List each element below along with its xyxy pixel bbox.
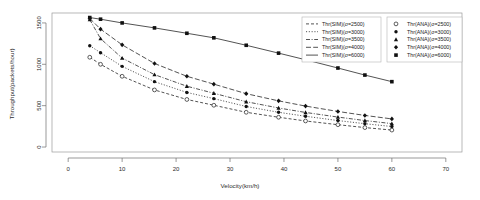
point-marker (394, 30, 397, 33)
point-marker (120, 65, 123, 68)
point-marker (244, 110, 248, 114)
legend-item-label: Thr(ANA)(σ=3500) (407, 36, 451, 42)
point-marker (153, 26, 157, 30)
point-marker (336, 123, 340, 127)
legend-item-label: Thr(SIM)(σ=3500) (322, 36, 365, 42)
throughput-velocity-line-chart: 050010001500 010203040506070 Throughput(… (0, 0, 480, 200)
point-marker (336, 119, 339, 122)
point-marker (336, 66, 340, 70)
chart-container: 050010001500 010203040506070 Throughput(… (0, 0, 480, 200)
x-tick-label: 40 (281, 166, 288, 172)
legend-item-label: Thr(ANA)(σ=3000) (407, 29, 451, 35)
x-tick-label: 30 (227, 166, 234, 172)
x-tick-label: 10 (119, 166, 126, 172)
point-marker (363, 73, 367, 77)
y-tick-label: 1000 (36, 57, 42, 71)
point-marker (244, 43, 248, 47)
point-marker (390, 128, 394, 132)
point-marker (212, 36, 216, 40)
point-marker (120, 21, 124, 25)
y-axis-label: Throughput(packets/hour) (8, 48, 15, 119)
x-tick-label: 70 (442, 166, 449, 172)
legend-ana[interactable]: Thr(ANA)(σ=2500)Thr(ANA)(σ=3000)Thr(ANA)… (387, 17, 462, 62)
point-marker (88, 16, 92, 20)
x-axis-label: Velocity(km/h) (221, 182, 260, 189)
legend-item-label: Thr(ANA)(σ=2500) (407, 21, 451, 27)
legend-item-label: Thr(SIM)(σ=2500) (322, 21, 365, 27)
point-marker (120, 74, 124, 78)
point-marker (390, 80, 394, 84)
legend-sim[interactable]: Thr(SIM)(σ=2500)Thr(SIM)(σ=3000)Thr(SIM)… (302, 17, 381, 62)
point-marker (185, 31, 189, 35)
point-marker (245, 105, 248, 108)
point-marker (277, 111, 280, 114)
x-tick-label: 50 (335, 166, 342, 172)
point-marker (304, 115, 307, 118)
point-marker (394, 53, 398, 57)
point-marker (153, 80, 156, 83)
x-tick-label: 20 (173, 166, 180, 172)
point-marker (394, 22, 398, 26)
legend-item-label: Thr(SIM)(σ=4000) (322, 44, 365, 50)
point-marker (88, 55, 92, 59)
point-marker (212, 103, 216, 107)
point-marker (363, 126, 367, 130)
point-marker (99, 51, 102, 54)
legend-item-label: Thr(SIM)(σ=3000) (322, 29, 365, 35)
point-marker (153, 88, 157, 92)
point-marker (185, 98, 189, 102)
y-tick-label: 1500 (36, 16, 42, 30)
legend-item-label: Thr(ANA)(σ=4000) (407, 44, 451, 50)
point-marker (99, 62, 103, 66)
point-marker (304, 119, 308, 123)
point-marker (99, 17, 103, 21)
point-marker (277, 51, 281, 55)
x-tick-label: 60 (389, 166, 396, 172)
point-marker (390, 125, 393, 128)
y-tick-label: 500 (36, 100, 42, 111)
point-marker (185, 91, 188, 94)
legend-item-label: Thr(SIM)(σ=6000) (322, 52, 365, 58)
point-marker (363, 122, 366, 125)
legend-item-label: Thr(ANA)(σ=6000) (407, 52, 451, 58)
point-marker (277, 115, 281, 119)
point-marker (212, 97, 215, 100)
point-marker (88, 44, 91, 47)
